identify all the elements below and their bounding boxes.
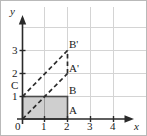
point-label-c: C [11,80,18,91]
x-tick-label-2: 2 [64,121,70,132]
x-axis-arrowhead [125,115,135,122]
coordinate-plane-figure: 0 1 2 3 4 1 2 3 y x A B C A' B' [0,0,147,136]
x-tick-label-3: 3 [87,121,93,132]
y-axis-name: y [10,6,15,17]
point-label-b: B [69,85,76,96]
point-label-b-prime: B' [69,39,78,50]
point-label-a-prime: A' [69,63,79,74]
x-axis-name: x [134,121,139,132]
point-label-a: A [69,105,77,116]
y-tick-label-1: 1 [12,91,18,102]
x-tick-label-1: 1 [41,121,47,132]
x-tick-label-0: 0 [15,121,21,132]
x-tick-label-4: 4 [110,121,116,132]
y-tick-label-2: 2 [12,68,18,79]
y-axis-arrowhead [19,15,26,25]
y-tick-label-3: 3 [12,45,18,56]
